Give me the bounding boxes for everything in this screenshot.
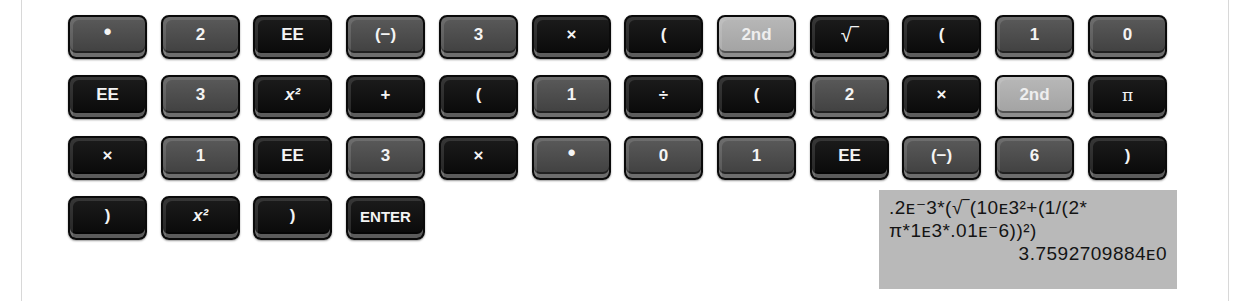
decimal-point-key[interactable]: • [532, 136, 611, 180]
key-label: 2nd [1019, 85, 1049, 105]
enter-key[interactable]: ENTER [346, 196, 425, 240]
open-paren-key[interactable]: ( [902, 15, 981, 59]
key-label: (−) [931, 146, 952, 166]
multiply-key[interactable]: × [439, 136, 518, 180]
key-label: 3 [474, 25, 483, 45]
key-label: ( [939, 25, 945, 45]
key-label: ) [1125, 146, 1131, 166]
key-label: + [381, 85, 391, 105]
key-label: ÷ [659, 85, 668, 105]
key-label: 2nd [741, 25, 771, 45]
square-key[interactable]: x² [253, 75, 332, 119]
digit-0-key[interactable]: 0 [1088, 15, 1167, 59]
key-label: (−) [375, 25, 396, 45]
display-result: 3.7592709884ᴇ0 [889, 242, 1167, 265]
open-paren-key[interactable]: ( [717, 75, 796, 119]
square-key[interactable]: x² [161, 196, 240, 240]
plus-key[interactable]: + [346, 75, 425, 119]
key-label: EE [281, 25, 304, 45]
key-label: ) [290, 206, 296, 226]
open-paren-key[interactable]: ( [624, 15, 703, 59]
negate-key[interactable]: (−) [902, 136, 981, 180]
ee-key[interactable]: EE [68, 75, 147, 119]
digit-3-key[interactable]: 3 [346, 136, 425, 180]
second-key[interactable]: 2nd [995, 75, 1074, 119]
key-label: ENTER [360, 208, 411, 225]
key-label: ( [754, 85, 760, 105]
calculator-display: .2ᴇ⁻3*(√‾(10ᴇ3²+(1/(2* π*1ᴇ3*.01ᴇ⁻6))²) … [879, 190, 1177, 289]
key-label: ) [105, 206, 111, 226]
negate-key[interactable]: (−) [346, 15, 425, 59]
display-expression-line-1: .2ᴇ⁻3*(√‾(10ᴇ3²+(1/(2* [889, 196, 1167, 219]
key-label: 0 [1123, 25, 1132, 45]
multiply-key[interactable]: × [532, 15, 611, 59]
key-label: 0 [659, 146, 668, 166]
left-border [21, 0, 22, 301]
key-label: 1 [567, 85, 576, 105]
digit-2-key[interactable]: 2 [810, 75, 889, 119]
multiply-key[interactable]: × [902, 75, 981, 119]
key-label: 1 [752, 146, 761, 166]
close-paren-key[interactable]: ) [68, 196, 147, 240]
decimal-point-key[interactable]: • [68, 15, 147, 59]
key-label: 6 [1030, 146, 1039, 166]
key-label: √‾ [841, 24, 859, 47]
digit-0-key[interactable]: 0 [624, 136, 703, 180]
digit-3-key[interactable]: 3 [439, 15, 518, 59]
ee-key[interactable]: EE [810, 136, 889, 180]
key-label: × [567, 25, 577, 45]
digit-1-key[interactable]: 1 [161, 136, 240, 180]
key-label: × [937, 85, 947, 105]
key-label: 3 [381, 146, 390, 166]
key-label: EE [281, 146, 304, 166]
key-label: EE [838, 146, 861, 166]
second-key[interactable]: 2nd [717, 15, 796, 59]
digit-1-key[interactable]: 1 [717, 136, 796, 180]
digit-1-key[interactable]: 1 [995, 15, 1074, 59]
display-expression-line-2: π*1ᴇ3*.01ᴇ⁻6))²) [889, 219, 1167, 242]
key-label: 3 [196, 85, 205, 105]
key-label: ( [661, 25, 667, 45]
open-paren-key[interactable]: ( [439, 75, 518, 119]
key-label: ( [476, 85, 482, 105]
close-paren-key[interactable]: ) [253, 196, 332, 240]
key-label: 1 [1030, 25, 1039, 45]
digit-3-key[interactable]: 3 [161, 75, 240, 119]
key-label: 2 [845, 85, 854, 105]
close-paren-key[interactable]: ) [1088, 136, 1167, 180]
pi-key[interactable]: π [1088, 75, 1167, 119]
key-label: x² [285, 85, 300, 105]
digit-2-key[interactable]: 2 [161, 15, 240, 59]
key-label: π [1122, 85, 1133, 105]
ee-key[interactable]: EE [253, 136, 332, 180]
key-label: × [103, 146, 113, 166]
ee-key[interactable]: EE [253, 15, 332, 59]
key-label: • [568, 140, 576, 166]
key-label: 1 [196, 146, 205, 166]
key-label: • [104, 19, 112, 45]
digit-1-key[interactable]: 1 [532, 75, 611, 119]
key-label: EE [96, 85, 119, 105]
key-label: × [474, 146, 484, 166]
divide-key[interactable]: ÷ [624, 75, 703, 119]
key-label: 2 [196, 25, 205, 45]
right-border [1228, 0, 1229, 301]
square-root-key[interactable]: √‾ [810, 15, 889, 59]
key-label: x² [193, 206, 208, 226]
digit-6-key[interactable]: 6 [995, 136, 1074, 180]
multiply-key[interactable]: × [68, 136, 147, 180]
